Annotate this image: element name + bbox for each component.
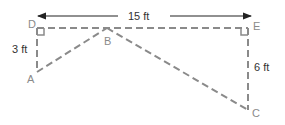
point-label-A: A [27,74,34,85]
dimension-label-EC: 6 ft [254,62,269,73]
segment-AB [37,28,107,72]
point-label-C: C [252,108,260,119]
segment-BC [107,28,248,110]
right-angle-mark-D [37,28,44,35]
point-label-D: D [28,19,36,30]
point-label-E: E [253,21,260,32]
dimension-label-DE: 15 ft [128,11,149,22]
point-label-B: B [104,36,111,47]
dimension-label-DA: 3 ft [12,44,27,55]
right-angle-mark-E [241,28,248,35]
